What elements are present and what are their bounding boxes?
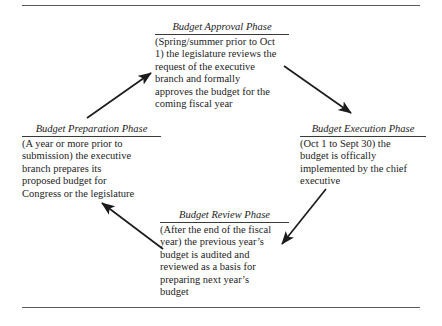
description-line: submission) the executive <box>22 150 161 162</box>
description-line: executive <box>300 175 426 187</box>
description-line: (A year or more prior to <box>22 138 161 150</box>
description-line: proposed budget for <box>22 175 161 187</box>
description-line: branch and formally <box>155 73 289 85</box>
description-line: coming fiscal year <box>155 98 289 110</box>
arrow-preparation-to-approval <box>87 73 151 118</box>
description-line: (After the end of the fiscal <box>160 224 289 236</box>
description-line: branch prepares its <box>22 163 161 175</box>
phase-budget-review: Budget Review Phase (After the end of th… <box>160 208 289 298</box>
phase-budget-execution: Budget Execution Phase (Oct 1 to Sept 30… <box>300 122 426 188</box>
arrow-review-to-preparation <box>102 203 163 249</box>
phase-approval-description: (Spring/summer prior to Oct1) the legisl… <box>155 36 289 110</box>
arrow-approval-to-execution <box>284 66 351 113</box>
phase-preparation-title: Budget Preparation Phase <box>22 122 161 136</box>
description-line: 1) the legislature reviews the <box>155 48 289 60</box>
description-line: (Spring/summer prior to Oct <box>155 36 289 48</box>
description-line: budget <box>160 286 289 298</box>
bottom-divider-rule <box>22 307 420 308</box>
description-line: preparing next year’s <box>160 274 289 286</box>
phase-execution-underline <box>300 136 426 137</box>
description-line: year) the previous year’s <box>160 236 289 248</box>
description-line: implemented by the chief <box>300 163 426 175</box>
description-line: Congress or the legislature <box>22 188 161 200</box>
phase-review-title: Budget Review Phase <box>160 208 289 222</box>
description-line: request of the executive <box>155 61 289 73</box>
phase-execution-description: (Oct 1 to Sept 30) thebudget is officall… <box>300 138 426 188</box>
phase-budget-preparation: Budget Preparation Phase (A year or more… <box>22 122 161 200</box>
phase-preparation-description: (A year or more prior tosubmission) the … <box>22 138 161 200</box>
description-line: approves the budget for the <box>155 86 289 98</box>
phase-review-underline <box>160 222 289 223</box>
phase-approval-underline <box>155 34 289 35</box>
description-line: (Oct 1 to Sept 30) the <box>300 138 426 150</box>
description-line: budget is audited and <box>160 249 289 261</box>
phase-approval-title: Budget Approval Phase <box>155 20 289 34</box>
phase-budget-approval: Budget Approval Phase (Spring/summer pri… <box>155 20 289 110</box>
description-line: reviewed as a basis for <box>160 261 289 273</box>
phase-review-description: (After the end of the fiscalyear) the pr… <box>160 224 289 298</box>
phase-preparation-underline <box>22 136 161 137</box>
budget-cycle-diagram: Budget Approval Phase (Spring/summer pri… <box>0 0 442 326</box>
description-line: budget is offically <box>300 150 426 162</box>
phase-execution-title: Budget Execution Phase <box>300 122 426 136</box>
